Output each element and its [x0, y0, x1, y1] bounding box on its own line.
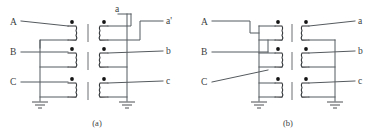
- panel-a-ground-left: [32, 102, 48, 108]
- terminal-label-a-prime: a': [166, 16, 172, 26]
- winding-a-left-1: [68, 26, 77, 40]
- panel-a-left-windings: [68, 26, 77, 97]
- terminal-label-c: c: [358, 76, 362, 86]
- panel-caption-b: (b): [283, 118, 293, 128]
- figure-root: A B C a a' b c (a): [0, 0, 381, 136]
- winding-b-left-1: [275, 26, 283, 40]
- polarity-dot: [102, 47, 106, 51]
- terminal-label-C: C: [10, 77, 16, 87]
- terminal-label-B: B: [201, 47, 207, 57]
- ground-icon: [327, 102, 343, 108]
- winding-b-left-2: [275, 53, 283, 67]
- wire-a-tap-a: [108, 14, 131, 26]
- wire-a-out-aprime: [108, 21, 163, 40]
- schematic-svg: A B C a a' b c (a): [0, 0, 381, 136]
- panel-b-secondary-wires: [309, 21, 355, 101]
- wire-a-phase-A: [21, 21, 68, 26]
- winding-b-right-2: [301, 53, 309, 67]
- panel-a-secondary-wires: [108, 14, 163, 101]
- polarity-dot: [276, 47, 280, 51]
- polarity-dot: [276, 77, 280, 81]
- polarity-dot: [304, 20, 308, 24]
- terminal-label-A: A: [10, 17, 17, 27]
- panel-b-primary-wires: [212, 21, 275, 101]
- ground-icon: [32, 102, 48, 108]
- polarity-dot: [70, 47, 74, 51]
- panel-b-left-windings: [275, 26, 283, 97]
- panel-caption-a: (a): [92, 118, 102, 128]
- panel-b-ground-left: [251, 102, 267, 108]
- winding-b-right-1: [301, 26, 309, 40]
- panel-a-ground-right: [119, 102, 135, 108]
- winding-a-left-2: [68, 53, 77, 67]
- polarity-dot: [70, 77, 74, 81]
- ground-icon: [251, 102, 267, 108]
- wire-b-phase-C: [212, 70, 268, 82]
- winding-a-right-1: [99, 26, 108, 40]
- panel-a-right-windings: [99, 26, 108, 97]
- terminal-label-A: A: [201, 17, 208, 27]
- polarity-dot: [276, 20, 280, 24]
- wire-a-coil1-return: [40, 40, 68, 48]
- polarity-dot: [102, 20, 106, 24]
- wire-a-out-b: [108, 51, 163, 53]
- panel-b: A B C a b c (b): [201, 16, 363, 128]
- terminal-label-B: B: [10, 47, 16, 57]
- winding-a-left-3: [68, 83, 77, 97]
- polarity-dot: [102, 77, 106, 81]
- terminal-label-a: a: [358, 16, 363, 26]
- wire-b-out-b: [309, 51, 355, 53]
- wire-b-phase-A: [212, 21, 259, 33]
- panel-a: A B C a a' b c (a): [10, 4, 172, 128]
- wire-a-out-c: [108, 81, 163, 83]
- winding-a-right-3: [99, 83, 108, 97]
- panel-b-ground-right: [327, 102, 343, 108]
- polarity-dot: [70, 20, 74, 24]
- terminal-label-b: b: [166, 46, 171, 56]
- winding-a-right-2: [99, 53, 108, 67]
- panel-b-right-windings: [301, 26, 309, 97]
- wire-b-out-c: [309, 81, 355, 83]
- winding-b-right-3: [301, 83, 309, 97]
- wire-b-out-a: [309, 21, 355, 26]
- polarity-dot: [304, 47, 308, 51]
- terminal-label-C: C: [201, 77, 207, 87]
- terminal-label-c: c: [166, 76, 170, 86]
- terminal-label-a: a: [115, 4, 120, 14]
- terminal-label-b: b: [358, 46, 363, 56]
- polarity-dot: [304, 77, 308, 81]
- ground-icon: [119, 102, 135, 108]
- panel-a-primary-wires: [21, 21, 68, 101]
- winding-b-left-3: [275, 83, 283, 97]
